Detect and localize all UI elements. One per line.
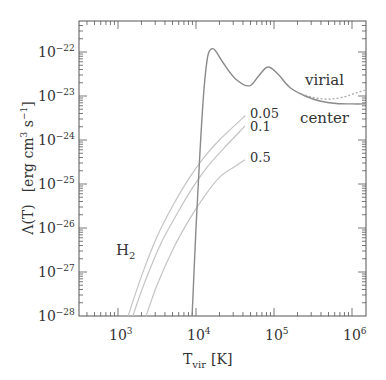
x-tick-labels: 103104105106 [109,326,367,343]
label-frac-0-1: 0.1 [250,119,271,134]
x-tick-label: 106 [343,326,367,343]
axis-ticks [79,21,366,316]
label-center: center [300,109,350,127]
y-tick-label: 10−24 [38,131,75,148]
y-tick-label: 10−27 [38,263,75,280]
curve-h2-0-05 [128,116,245,316]
label-h2: H2 [116,241,135,261]
cooling-function-chart: 103104105106 10−2210−2310−2410−2510−2610… [0,0,386,380]
y-tick-label: 10−28 [38,307,75,324]
y-tick-label: 10−25 [38,175,75,192]
x-tick-label: 104 [187,326,211,343]
y-tick-label: 10−26 [38,219,75,236]
label-virial: virial [304,71,344,89]
plot-frame [79,21,366,316]
y-tick-label: 10−23 [38,87,75,104]
x-axis-label: Tvir[K] [183,351,232,370]
y-axis-label: Λ(T)[erg cm3 s−1] [19,101,36,235]
svg-text:Λ(T)[erg cm3 s−1]: Λ(T)[erg cm3 s−1] [19,101,36,235]
y-tick-label: 10−22 [38,43,75,60]
label-frac-0-5: 0.5 [250,150,271,165]
x-tick-label: 103 [109,326,133,343]
x-tick-label: 105 [265,326,289,343]
y-tick-labels: 10−2210−2310−2410−2510−2610−2710−28 [38,43,75,324]
